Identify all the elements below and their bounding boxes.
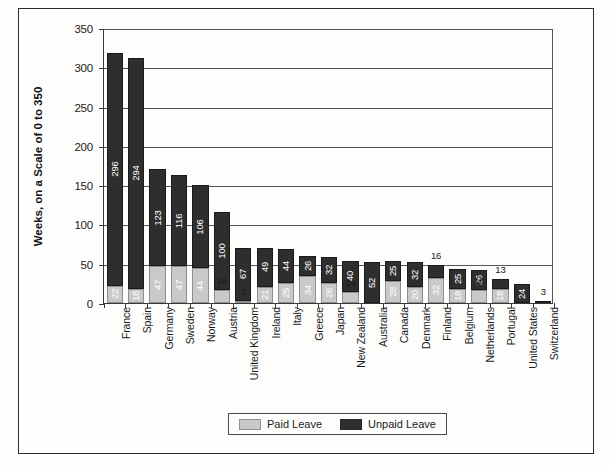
bar-segment-unpaid[interactable]: 294 [128, 58, 144, 289]
x-axis-category-label: Japan [333, 307, 347, 402]
x-axis-category-label: United Kingdom [247, 307, 261, 402]
plot-area: 2962229418123471164710644100166734921442… [103, 29, 553, 304]
bar-stack[interactable]: 673 [235, 248, 251, 303]
x-axis-category-label: Belgium [462, 307, 476, 402]
bar-stack[interactable]: 29418 [128, 58, 144, 303]
bar-value-label: 18 [496, 291, 506, 301]
bar-group[interactable]: 52 [361, 29, 382, 303]
bar-segment-paid[interactable]: 20 [407, 287, 423, 303]
bar-segment-paid[interactable]: 14 [342, 292, 358, 303]
bar-value-label: 13 [495, 265, 505, 275]
bar-segment-paid[interactable]: 47 [171, 266, 187, 303]
bar-stack[interactable]: 3220 [407, 262, 423, 303]
bar-segment-unpaid[interactable]: 44 [278, 249, 294, 284]
bar-group[interactable]: 1318 [490, 29, 511, 303]
bar-segment-unpaid[interactable]: 52 [364, 262, 380, 303]
bar-segment-paid[interactable]: 26 [321, 283, 337, 303]
bar-stack[interactable]: 2616 [471, 270, 487, 303]
bar-stack[interactable]: 52 [364, 262, 380, 303]
bar-group[interactable]: 29622 [104, 29, 125, 303]
bar-group[interactable]: 10016 [211, 29, 232, 303]
bar-stack[interactable]: 4014 [342, 261, 358, 303]
bar-stack[interactable]: 10644 [192, 185, 208, 303]
bar-segment-unpaid[interactable]: 296 [107, 53, 123, 286]
bar-group[interactable]: 673 [233, 29, 254, 303]
bar-group[interactable]: 2634 [297, 29, 318, 303]
bar-stack[interactable]: 3 [535, 301, 551, 303]
bar-segment-unpaid[interactable]: 25 [449, 269, 465, 289]
y-axis-tick-label: 150 [53, 180, 93, 192]
bar-segment-unpaid[interactable]: 32 [321, 257, 337, 282]
x-axis-category-label: Austria [226, 307, 240, 402]
bar-segment-unpaid[interactable]: 25 [385, 261, 401, 281]
bar-segment-unpaid[interactable]: 49 [257, 248, 273, 287]
bar-segment-paid[interactable]: 16 [471, 290, 487, 303]
bar-stack[interactable]: 24 [514, 284, 530, 303]
bar-group[interactable]: 2518 [447, 29, 468, 303]
bar-segment-unpaid[interactable]: 26 [299, 256, 315, 276]
bar-group[interactable]: 2616 [468, 29, 489, 303]
bar-stack[interactable]: 2518 [449, 269, 465, 303]
bar-group[interactable]: 29418 [125, 29, 146, 303]
bar-stack[interactable]: 4425 [278, 249, 294, 303]
bar-group[interactable]: 10644 [190, 29, 211, 303]
bar-segment-unpaid[interactable]: 32 [407, 262, 423, 287]
x-axis-category-label: Germany [162, 307, 176, 402]
bar-value-label: 32 [410, 270, 420, 280]
bar-group[interactable]: 1632 [425, 29, 446, 303]
bar-stack[interactable]: 1318 [492, 279, 508, 303]
bar-group[interactable]: 12347 [147, 29, 168, 303]
bar-stack[interactable]: 10016 [214, 212, 230, 303]
bar-segment-paid[interactable]: 3 [235, 301, 251, 303]
bar-group[interactable]: 24 [511, 29, 532, 303]
bar-segment-paid[interactable]: 44 [192, 268, 208, 303]
bar-stack[interactable]: 1632 [428, 265, 444, 303]
bar-group[interactable]: 4014 [340, 29, 361, 303]
bar-stack[interactable]: 29622 [107, 53, 123, 303]
bar-stack[interactable]: 11647 [171, 175, 187, 303]
bar-segment-unpaid[interactable]: 3 [535, 301, 551, 303]
bar-segment-unpaid[interactable]: 116 [171, 175, 187, 266]
bar-value-label: 47 [153, 279, 163, 289]
bar-segment-unpaid[interactable]: 16 [428, 265, 444, 278]
y-axis-tick-label: 50 [53, 259, 93, 271]
bar-segment-paid[interactable]: 18 [492, 289, 508, 303]
bar-segment-paid[interactable]: 34 [299, 276, 315, 303]
bar-group[interactable]: 4425 [275, 29, 296, 303]
bar-value-label: 28 [389, 287, 399, 297]
bar-segment-paid[interactable]: 47 [149, 266, 165, 303]
bar-value-label: 32 [324, 265, 334, 275]
bar-group[interactable]: 4921 [254, 29, 275, 303]
bar-group[interactable]: 2528 [383, 29, 404, 303]
bar-value-label: 16 [431, 252, 441, 262]
bar-stack[interactable]: 3226 [321, 257, 337, 303]
bar-group[interactable]: 3220 [404, 29, 425, 303]
bar-segment-unpaid[interactable]: 13 [492, 279, 508, 289]
bar-value-label: 14 [345, 278, 355, 288]
bar-segment-paid[interactable]: 16 [214, 290, 230, 303]
bar-segment-paid[interactable]: 21 [257, 287, 273, 304]
bar-group[interactable]: 11647 [168, 29, 189, 303]
bar-stack[interactable]: 2634 [299, 256, 315, 303]
chart-legend: Paid Leave Unpaid Leave [228, 413, 447, 435]
x-axis-category-label: Australia [376, 307, 390, 402]
bar-segment-unpaid[interactable]: 123 [149, 169, 165, 266]
bar-segment-paid[interactable]: 22 [107, 286, 123, 303]
bar-stack[interactable]: 12347 [149, 169, 165, 303]
bar-group[interactable]: 3226 [318, 29, 339, 303]
bar-segment-unpaid[interactable]: 24 [514, 284, 530, 303]
bar-segment-paid[interactable]: 18 [128, 289, 144, 303]
bar-stack[interactable]: 4921 [257, 248, 273, 303]
bar-group[interactable]: 3 [533, 29, 554, 303]
bar-segment-paid[interactable]: 25 [278, 283, 294, 303]
bar-segment-paid[interactable]: 18 [449, 289, 465, 303]
bar-segment-paid[interactable]: 28 [385, 281, 401, 303]
bar-stack[interactable]: 2528 [385, 261, 401, 303]
bar-segment-paid[interactable]: 32 [428, 278, 444, 303]
bar-value-label: 18 [131, 291, 141, 301]
bar-value-label: 22 [110, 289, 120, 299]
y-axis-tick-label: 300 [53, 62, 93, 74]
x-axis-category-label: France [119, 307, 133, 402]
x-axis-labels: FranceSpainGermanySwedenNorwayAustriaUni… [103, 307, 553, 402]
bar-segment-unpaid[interactable]: 106 [192, 185, 208, 268]
